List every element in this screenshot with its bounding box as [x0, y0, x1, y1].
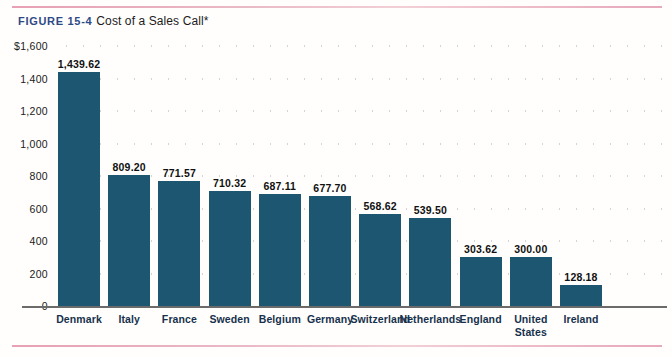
bar-chart-plot-area: 02004006008001,0001,2001,400$1,600 1,439… [0, 0, 672, 357]
y-axis-tick-label: $1,600 [0, 40, 48, 52]
bar-value-label: 809.20 [113, 161, 146, 173]
bar [510, 257, 552, 306]
bar-value-label: 300.00 [514, 243, 547, 255]
y-axis-tick-label: 400 [0, 235, 48, 247]
gridline [58, 143, 666, 144]
bar [309, 196, 351, 306]
bottom-rule [12, 345, 662, 347]
bar [409, 218, 451, 306]
bar-value-label: 128.18 [564, 271, 597, 283]
bar [209, 191, 251, 306]
bar-value-label: 568.62 [364, 200, 397, 212]
category-label: Ireland [563, 313, 598, 326]
bar [108, 175, 150, 306]
category-label: Netherlands [399, 313, 461, 326]
bar-value-label: 677.70 [313, 182, 346, 194]
y-axis-tick-label: 1,200 [0, 105, 48, 117]
category-label: Sweden [209, 313, 249, 326]
bar-value-label: 687.11 [263, 180, 296, 192]
category-label: Italy [118, 313, 140, 326]
bar [460, 257, 502, 306]
y-axis-tick-label: 200 [0, 268, 48, 280]
y-axis-tick-label: 600 [0, 203, 48, 215]
bar-value-label: 710.32 [213, 177, 246, 189]
bar [359, 214, 401, 306]
category-label: Germany [307, 313, 353, 326]
bar [58, 72, 100, 306]
category-label: France [162, 313, 197, 326]
gridline [58, 78, 666, 79]
bar [259, 194, 301, 306]
bar-value-label: 303.62 [464, 243, 497, 255]
gridline [58, 111, 666, 112]
figure-container: FIGURE 15-4Cost of a Sales Call* 0200400… [0, 0, 672, 357]
category-label: Belgium [259, 313, 301, 326]
gridline [58, 46, 666, 47]
category-label: England [460, 313, 502, 326]
bar [560, 285, 602, 306]
category-label: United States [514, 313, 547, 338]
bar [158, 181, 200, 306]
y-axis-tick-label: 800 [0, 170, 48, 182]
y-axis-tick-label: 1,000 [0, 138, 48, 150]
y-axis-tick-label: 1,400 [0, 73, 48, 85]
bar-value-label: 1,439.62 [58, 58, 100, 70]
bar-value-label: 539.50 [414, 204, 447, 216]
category-label: Denmark [56, 313, 102, 326]
x-axis-line [22, 306, 667, 308]
bar-value-label: 771.57 [163, 167, 196, 179]
